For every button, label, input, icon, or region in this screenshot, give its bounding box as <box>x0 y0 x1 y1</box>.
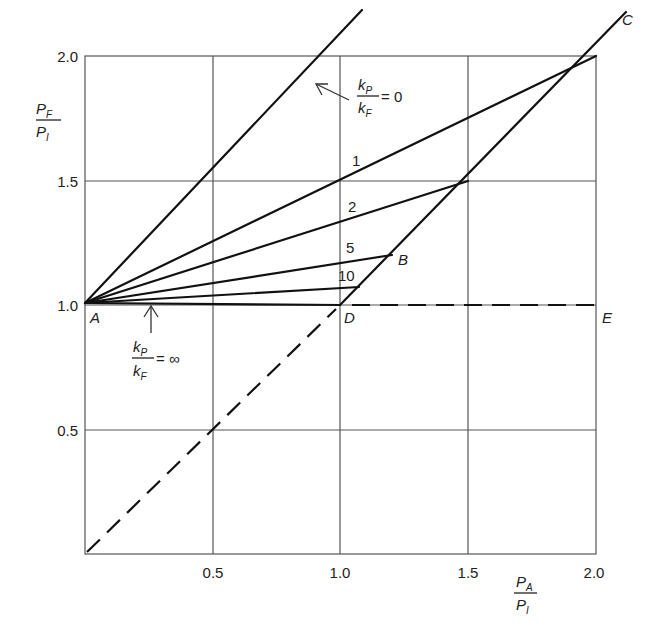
label-kp-kf-zero: kP kF = 0 <box>357 76 402 119</box>
curve-label-1: 1 <box>352 152 360 169</box>
x-axis-label: PA PI <box>514 573 537 616</box>
svg-text:kP: kP <box>133 338 148 358</box>
point-label-b: B <box>398 251 408 268</box>
y-tick-0.5: 0.5 <box>57 422 78 439</box>
svg-text:PA: PA <box>516 573 533 593</box>
x-tick-2.0: 2.0 <box>584 564 605 581</box>
svg-text:PF: PF <box>36 100 53 120</box>
y-tick-1.5: 1.5 <box>57 173 78 190</box>
x-tick-1.5: 1.5 <box>458 564 479 581</box>
svg-text:= 0: = 0 <box>381 88 402 105</box>
x-tick-1.0: 1.0 <box>330 564 351 581</box>
point-label-a: A <box>89 309 100 326</box>
arrow-kp-kf-zero <box>316 84 349 100</box>
curve-label-5: 5 <box>346 239 354 256</box>
svg-text:PI: PI <box>516 596 529 616</box>
svg-text:kF: kF <box>358 99 373 119</box>
x-tick-0.5: 0.5 <box>203 564 224 581</box>
point-label-e: E <box>602 309 613 326</box>
svg-text:PI: PI <box>36 123 49 143</box>
y-tick-2.0: 2.0 <box>57 48 78 65</box>
y-tick-1.0: 1.0 <box>57 297 78 314</box>
label-kp-kf-infinity: kP kF = ∞ <box>132 338 180 382</box>
point-label-d: D <box>344 309 355 326</box>
curve-label-10: 10 <box>338 267 355 284</box>
svg-text:kP: kP <box>358 76 373 96</box>
y-axis-label: PF PI <box>36 100 61 143</box>
chart: 2.0 1.5 1.0 0.5 0.5 1.0 1.5 2.0 PF PI PA… <box>0 0 652 644</box>
curve-label-2: 2 <box>348 198 356 215</box>
svg-text:kF: kF <box>133 362 148 382</box>
svg-text:= ∞: = ∞ <box>156 350 180 367</box>
point-label-c: C <box>622 11 633 28</box>
arrow-kp-kf-infinity <box>144 306 158 333</box>
